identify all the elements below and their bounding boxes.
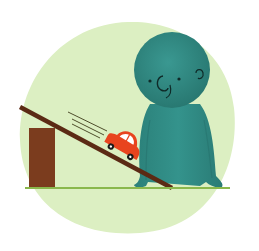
character-eye-right <box>177 77 180 80</box>
character-eye-left <box>148 79 151 82</box>
illustration-scene: Teal cartoon character watching a red to… <box>0 0 259 251</box>
block <box>29 128 55 187</box>
illustration-canvas <box>0 0 259 251</box>
ground-line <box>25 187 230 189</box>
